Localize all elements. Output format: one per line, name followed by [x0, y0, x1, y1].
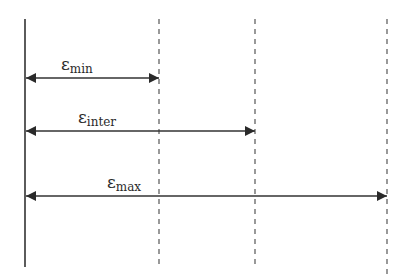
strain-range-diagram: εmin εinter εmax — [0, 0, 411, 278]
label-epsilon-max: εmax — [107, 172, 141, 194]
label-epsilon-inter: εinter — [78, 107, 116, 129]
label-epsilon-min: εmin — [61, 54, 93, 76]
